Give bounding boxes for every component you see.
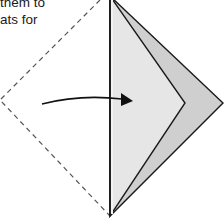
dashed-left-half-outline [0,0,110,216]
origami-diagram [0,0,224,222]
